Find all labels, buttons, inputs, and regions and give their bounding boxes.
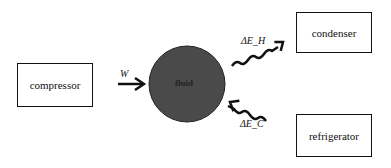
heat-in-label: ΔE_C xyxy=(240,118,264,129)
condenser-box: condenser xyxy=(296,12,372,53)
work-label: W xyxy=(120,68,128,79)
compressor-label: compressor xyxy=(30,79,81,91)
heat-out-label: ΔE_H xyxy=(241,35,265,46)
refrigerator-box: refrigerator xyxy=(296,114,372,157)
fluid-label: fluid xyxy=(175,78,193,88)
condenser-label: condenser xyxy=(312,27,357,39)
compressor-box: compressor xyxy=(17,63,93,107)
refrigerator-label: refrigerator xyxy=(309,130,359,142)
work-arrow xyxy=(118,78,144,90)
